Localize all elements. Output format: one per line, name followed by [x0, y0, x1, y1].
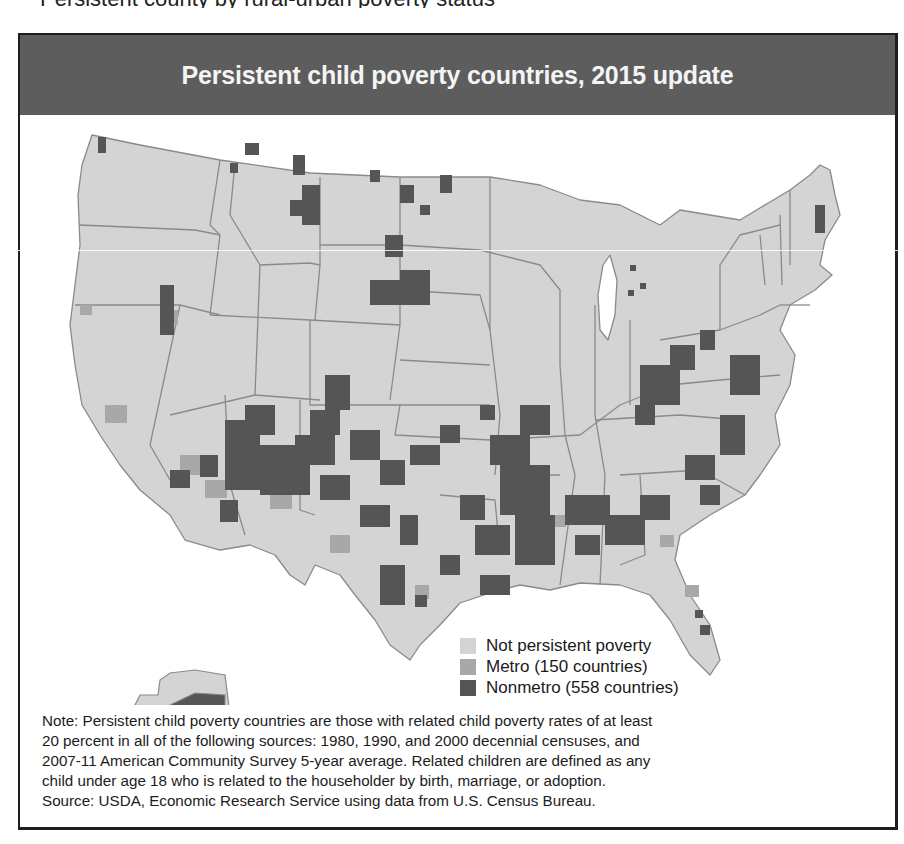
- legend-swatch-not-persistent: [460, 638, 476, 654]
- legend-item-not-persistent: Not persistent poverty: [460, 635, 679, 656]
- map-legend: Not persistent poverty Metro (150 countr…: [460, 635, 679, 698]
- legend-swatch-nonmetro: [460, 680, 476, 696]
- legend-item-metro: Metro (150 countries): [460, 656, 679, 677]
- scan-artifact-line: [0, 250, 904, 251]
- title-bar: Persistent child poverty countries, 2015…: [20, 35, 895, 115]
- note-line: 20 percent in all of the following sourc…: [42, 731, 872, 751]
- note-line: Note: Persistent child poverty countries…: [42, 711, 872, 731]
- figure-frame: Persistent child poverty countries, 2015…: [18, 33, 898, 830]
- alaska: [135, 670, 260, 705]
- note-line: 2007-11 American Community Survey 5-year…: [42, 751, 872, 771]
- legend-label: Metro (150 countries): [486, 657, 648, 677]
- legend-label: Nonmetro (558 countries): [486, 678, 679, 698]
- us-choropleth-map: [20, 115, 895, 705]
- figure-title: Persistent child poverty countries, 2015…: [182, 61, 734, 90]
- legend-item-nonmetro: Nonmetro (558 countries): [460, 677, 679, 698]
- legend-label: Not persistent poverty: [486, 636, 651, 656]
- legend-swatch-metro: [460, 659, 476, 675]
- cropped-caption-fragment: Persistent county by rural-urban poverty…: [0, 0, 904, 8]
- note-line: child under age 18 who is related to the…: [42, 771, 872, 791]
- figure-note: Note: Persistent child poverty countries…: [42, 711, 872, 811]
- contiguous-us: [70, 135, 840, 675]
- source-line: Source: USDA, Economic Research Service …: [42, 791, 872, 811]
